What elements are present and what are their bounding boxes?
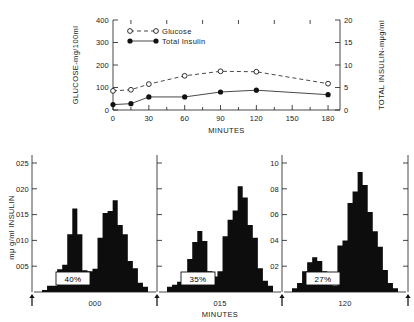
histogram-y-tick-label: 020: [16, 185, 29, 194]
total-insulin-point: [254, 88, 259, 93]
injection-arrow-head: [154, 294, 159, 298]
legend-insulin-label: Total Insulin: [162, 37, 206, 46]
top-left-tick-label: 400: [96, 16, 109, 25]
legend-insulin-marker: [153, 38, 158, 43]
scientific-figure-svg: 0100200300400051015200306090120150180GLU…: [0, 0, 414, 322]
glucose-point: [182, 73, 187, 78]
legend-glucose-marker: [128, 29, 133, 34]
injection-arrow-head: [29, 294, 34, 298]
percent-label: 35%: [190, 275, 207, 284]
legend-glucose-label: Glucose: [162, 27, 192, 36]
top-left-axis-title: GLUCOSE-mg/100ml: [71, 26, 80, 105]
histogram-y-tick-label: 06: [270, 210, 279, 219]
top-x-tick-label: 90: [216, 114, 225, 123]
top-right-axis-title: TOTAL INSULIN-mμg/ml: [377, 20, 386, 110]
top-right-tick-label: 5: [344, 83, 348, 92]
legend-insulin-marker: [127, 38, 132, 43]
histogram-y-tick-label: 010: [16, 236, 29, 245]
top-left-tick-label: 300: [96, 38, 109, 47]
top-x-axis-title: MINUTES: [208, 126, 245, 135]
histogram-y-axis-title: mμ g/ml INSULIN: [7, 195, 16, 260]
percent-label: 27%: [315, 275, 332, 284]
top-x-tick-label: 180: [321, 114, 334, 123]
glucose-point: [218, 69, 223, 74]
histogram-x-axis-title: MINUTES: [202, 310, 239, 319]
panel-time-label: 015: [213, 299, 226, 308]
total-insulin-point: [128, 101, 133, 106]
glucose-point: [254, 69, 259, 74]
injection-arrow-head: [279, 294, 284, 298]
injection-arrow-head: [405, 294, 410, 298]
top-x-tick-label: 0: [111, 114, 115, 123]
glucose-point: [326, 81, 331, 86]
top-right-tick-label: 20: [344, 16, 353, 25]
total-insulin-point: [146, 94, 151, 99]
top-left-tick-label: 0: [105, 106, 109, 115]
top-left-tick-label: 100: [96, 83, 109, 92]
glucose-point: [111, 88, 116, 93]
top-right-tick-label: 15: [344, 38, 353, 47]
histogram-y-tick-label: 025: [16, 159, 29, 168]
histogram-y-tick-label: 08: [270, 185, 279, 194]
total-insulin-point: [218, 89, 223, 94]
top-left-tick-label: 200: [96, 61, 109, 70]
top-x-tick-label: 150: [286, 114, 299, 123]
top-x-tick-label: 120: [250, 114, 263, 123]
figure-root: 0100200300400051015200306090120150180GLU…: [0, 0, 414, 322]
total-insulin-point: [325, 92, 330, 97]
histogram-y-tick-label: 02: [270, 262, 279, 271]
panel-time-label: 120: [338, 299, 351, 308]
total-insulin-point: [110, 102, 115, 107]
glucose-point: [146, 82, 151, 87]
panel-time-label: 000: [88, 299, 101, 308]
top-right-tick-label: 0: [344, 106, 348, 115]
glucose-point: [129, 87, 134, 92]
top-right-tick-label: 10: [344, 61, 353, 70]
top-x-tick-label: 60: [180, 114, 189, 123]
histogram-y-tick-label: 10: [270, 159, 279, 168]
histogram-y-tick-label: 015: [16, 210, 29, 219]
top-x-tick-label: 30: [144, 114, 153, 123]
percent-label: 40%: [65, 275, 82, 284]
total-insulin-point: [182, 94, 187, 99]
glucose-line: [113, 71, 328, 91]
histogram-y-tick-label: 005: [16, 262, 29, 271]
histogram-y-tick-label: 04: [270, 236, 279, 245]
legend-glucose-marker: [154, 29, 159, 34]
